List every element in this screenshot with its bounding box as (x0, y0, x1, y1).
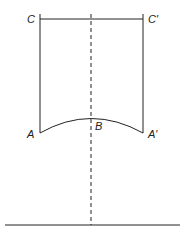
label-a: A (27, 129, 34, 140)
label-a-prime: A′ (148, 129, 157, 140)
label-c-prime: C′ (148, 14, 158, 25)
diagram-canvas (0, 0, 188, 236)
label-c: C (27, 14, 35, 25)
label-b: B (95, 121, 102, 132)
